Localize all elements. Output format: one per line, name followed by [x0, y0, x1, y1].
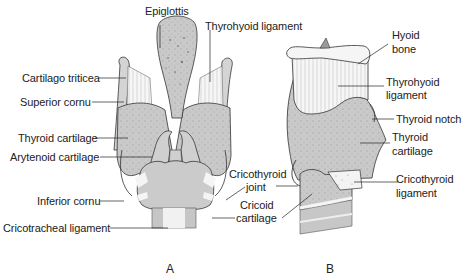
figure-b-letter: B	[326, 262, 334, 276]
cricoid-cartilage-a	[137, 161, 214, 210]
label-superior-cornu: Superior cornu	[20, 96, 91, 108]
label-cricothyroid-ligament-2: ligament	[396, 187, 437, 199]
label-arytenoid-cartilage: Arytenoid cartilage	[10, 151, 99, 163]
epiglottis-shape	[157, 16, 197, 118]
label-inferior-cornu: Inferior cornu	[37, 195, 100, 207]
label-thyroid-cartilage-b-2: cartilage	[392, 145, 433, 157]
label-thyrohyoid-ligament-a: Thyrohyoid ligament	[205, 20, 302, 32]
label-thyrohyoid-ligament-b-1: Thyrohyoid	[386, 76, 439, 88]
label-thyroid-cartilage-a: Thyroid cartilage	[18, 132, 98, 144]
label-thyrohyoid-ligament-b-2: ligament	[386, 89, 427, 101]
label-cricoid-cartilage-1: Cricoid	[240, 199, 274, 211]
label-thyroid-notch: Thyroid notch	[396, 113, 461, 125]
label-cricoid-cartilage-2: cartilage	[236, 212, 277, 224]
figure-a-letter: A	[166, 262, 174, 276]
label-hyoid-bone-2: bone	[392, 43, 416, 55]
label-cricothyroid-joint-1: Cricothyroid	[229, 168, 287, 180]
label-cartilago-triticea: Cartilago triticea	[22, 72, 100, 84]
label-hyoid-bone-1: Hyoid	[392, 29, 420, 41]
label-thyroid-cartilage-b-1: Thyroid	[392, 131, 428, 143]
label-cricothyroid-ligament-1: Cricothyroid	[396, 173, 454, 185]
label-cricotracheal-ligament: Cricotracheal ligament	[3, 222, 110, 234]
label-cricothyroid-joint-2: joint	[246, 181, 266, 193]
figure-a-drawing	[114, 16, 232, 228]
figure-b-drawing	[287, 38, 386, 234]
label-epiglottis: Epiglottis	[145, 5, 189, 17]
